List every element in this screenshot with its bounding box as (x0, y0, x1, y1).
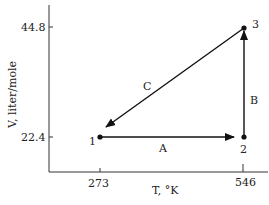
point-3 (241, 25, 246, 30)
path-b-label: B (250, 94, 258, 107)
path-a-label: A (158, 142, 168, 155)
y-tick-label-22.4: 22.4 (21, 131, 46, 144)
path-c-label: C (143, 80, 151, 93)
point-1-label: 1 (89, 135, 96, 148)
y-axis-label: V, liter/mole (6, 61, 19, 129)
path-c-arrow (106, 28, 244, 127)
point-2-label: 2 (240, 143, 247, 156)
x-tick-label-546: 546 (235, 176, 256, 189)
point-2 (241, 134, 246, 139)
x-tick-label-273: 273 (88, 177, 109, 190)
point-3-label: 3 (252, 18, 259, 31)
thermo-cycle-diagram: 44.8 22.4 273 546 T, °K V, liter/mole 1 … (0, 0, 269, 205)
x-axis-label: T, °K (152, 184, 179, 197)
y-tick-label-44.8: 44.8 (21, 21, 46, 34)
point-1 (97, 134, 102, 139)
